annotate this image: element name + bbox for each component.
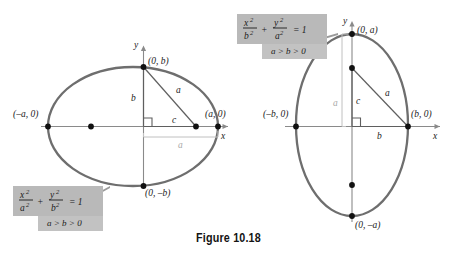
left-equation-box: x 2 a 2 + y 2 b 2 = 1 xyxy=(13,186,103,216)
left-x-axis xyxy=(41,124,228,129)
right-semi-major-bracket xyxy=(342,34,348,127)
figure-10-18: x y (–a, 0) (a, 0) (0, b) (0, –b) b c a … xyxy=(0,0,457,265)
right-eq-plus: + xyxy=(261,25,267,35)
right-semi-minor-label: b xyxy=(377,131,382,141)
left-eq-equals: = 1 xyxy=(69,197,83,207)
right-right-vertex-point xyxy=(405,124,411,130)
top-vertex-label: (0, b) xyxy=(148,56,169,67)
right-focus-point xyxy=(193,124,199,130)
bottom-vertex-label: (0, –b) xyxy=(145,188,170,199)
left-eq-plus: + xyxy=(37,197,43,207)
left-vertex-label: (–a, 0) xyxy=(13,109,38,120)
left-hypotenuse-label: a xyxy=(176,85,181,95)
top-vertex-point xyxy=(141,64,147,70)
left-semi-major-faint-label: a xyxy=(178,140,183,150)
left-x-axis-label: x xyxy=(220,131,226,141)
figure-caption: Figure 10.18 xyxy=(32,231,425,245)
right-left-vertex-label: (–b, 0) xyxy=(263,109,288,120)
left-semi-minor-label: b xyxy=(131,93,136,103)
right-eq-den1: b xyxy=(244,31,249,41)
right-bottom-vertex-label: (0, –a) xyxy=(355,220,380,231)
right-eq-equals: = 1 xyxy=(293,25,307,35)
right-vertex-label: (a, 0) xyxy=(205,109,226,120)
right-condition-text: a > b > 0 xyxy=(271,46,306,56)
left-panel-group: x y (–a, 0) (a, 0) (0, b) (0, –b) b c a … xyxy=(13,40,228,231)
right-eq-num2: y xyxy=(273,18,279,28)
right-panel-group: x y (–b, 0) (b, 0) (0, a) (0, –a) c b a … xyxy=(237,14,440,231)
left-eq-den1: a xyxy=(20,203,25,213)
right-top-vertex-label: (0, a) xyxy=(357,25,378,36)
right-lower-focus-point xyxy=(349,182,355,188)
left-eq-num1: x xyxy=(19,190,25,200)
left-eq-num2: y xyxy=(49,190,55,200)
right-vertex-point xyxy=(215,124,221,130)
right-right-vertex-label: (b, 0) xyxy=(411,109,432,120)
left-vertex-point xyxy=(45,124,51,130)
right-semi-major-faint-label: a xyxy=(333,98,338,108)
left-y-axis-label: y xyxy=(133,40,139,50)
right-equation-box: x 2 b 2 + y 2 a 2 = 1 xyxy=(237,14,327,44)
left-focus-point xyxy=(88,124,94,130)
right-top-vertex-point xyxy=(349,31,355,37)
right-bottom-vertex-point xyxy=(349,213,355,219)
left-focal-label: c xyxy=(172,115,177,125)
right-hypotenuse-label: a xyxy=(385,88,390,98)
right-y-axis-label: y xyxy=(342,16,348,26)
left-condition-text: a > b > 0 xyxy=(47,218,82,228)
right-upper-focus-point xyxy=(349,65,355,71)
right-left-vertex-point xyxy=(293,124,299,130)
right-focal-label: c xyxy=(356,96,361,106)
left-right-triangle xyxy=(144,67,197,127)
right-eq-num1: x xyxy=(243,18,249,28)
right-x-axis-label: x xyxy=(432,131,438,141)
left-semi-major-bracket xyxy=(144,131,219,137)
figure-canvas: x y (–a, 0) (a, 0) (0, b) (0, –b) b c a … xyxy=(0,0,457,265)
